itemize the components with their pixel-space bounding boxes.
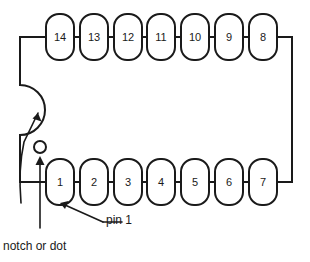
pin-2[interactable]: 2 <box>80 159 108 205</box>
pin-13[interactable]: 13 <box>80 14 108 60</box>
pin-11[interactable]: 11 <box>147 14 175 60</box>
pin-10-number: 10 <box>189 31 201 43</box>
pin-1[interactable]: 1 <box>46 159 74 205</box>
pin-13-number: 13 <box>88 31 100 43</box>
pin-1-label: pin 1 <box>106 214 132 226</box>
pin-12[interactable]: 12 <box>114 14 142 60</box>
dip-package-diagram: 14 13 12 11 10 9 <box>0 0 310 262</box>
pin-4-number: 4 <box>158 176 164 188</box>
arrow-up-icon <box>36 156 45 165</box>
dip-diagram-canvas: 14 13 12 11 10 9 <box>0 0 310 262</box>
pin-4[interactable]: 4 <box>147 159 175 205</box>
pin-1-number: 1 <box>57 176 63 188</box>
pin-6-number: 6 <box>226 176 232 188</box>
pin-1-orientation-dot <box>34 141 46 153</box>
pin-7[interactable]: 7 <box>249 159 277 205</box>
pin-5[interactable]: 5 <box>181 159 209 205</box>
pin-3-number: 3 <box>125 176 131 188</box>
pin-14-number: 14 <box>54 31 66 43</box>
pin-8-number: 8 <box>260 31 266 43</box>
pin-11-number: 11 <box>155 31 166 43</box>
pin-9[interactable]: 9 <box>215 14 243 60</box>
pin-14[interactable]: 14 <box>46 14 74 60</box>
pin-5-number: 5 <box>192 176 198 188</box>
pin-10[interactable]: 10 <box>181 14 209 60</box>
top-pin-row: 14 13 12 11 10 9 <box>46 14 277 60</box>
notch-or-dot-label: notch or dot <box>3 240 66 252</box>
pin-7-number: 7 <box>260 176 266 188</box>
bottom-pin-row: 1 2 3 4 5 6 7 <box>46 159 277 205</box>
pin-8[interactable]: 8 <box>249 14 277 60</box>
dot-callout-arrow <box>36 156 45 228</box>
pin-6[interactable]: 6 <box>215 159 243 205</box>
pin-2-number: 2 <box>91 176 97 188</box>
pin-12-number: 12 <box>122 31 134 43</box>
pin-3[interactable]: 3 <box>114 159 142 205</box>
pin-9-number: 9 <box>226 31 232 43</box>
